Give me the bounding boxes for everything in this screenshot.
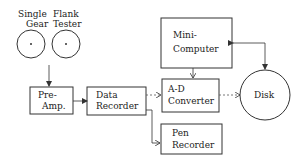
block-preamp: Pre- Amp.: [30, 87, 73, 114]
block-ad-converter: A-D Converter: [162, 79, 219, 112]
block-disk: Disk: [240, 70, 290, 120]
datarecorder-line2: Recorder: [96, 101, 139, 111]
block-data-recorder: Data Recorder: [87, 87, 146, 115]
disk-label: Disk: [254, 90, 275, 100]
minicomputer-line2: Computer: [173, 44, 219, 54]
block-pen-recorder: Pen Recorder: [161, 124, 222, 154]
adconverter-line2: Converter: [168, 96, 215, 106]
preamp-line1: Pre-: [38, 90, 57, 100]
connector-minicomputer-disk: [233, 43, 265, 69]
penrecorder-line1: Pen: [172, 128, 189, 138]
gear-right-icon: [52, 30, 80, 58]
adconverter-line1: A-D: [167, 84, 185, 94]
tester-label-tester: Tester: [53, 19, 82, 29]
block-minicomputer: Mini- Computer: [161, 18, 232, 68]
preamp-line2: Amp.: [41, 101, 66, 111]
penrecorder-line2: Recorder: [172, 140, 215, 150]
minicomputer-line1: Mini-: [173, 30, 197, 40]
gear-left-icon: [17, 30, 45, 58]
tester-label-flank: Flank: [53, 9, 79, 19]
tester-label-single: Single: [18, 9, 47, 19]
block-diagram: Single Gear Flank Tester Pre- Amp. Data …: [0, 0, 305, 167]
datarecorder-line1: Data: [96, 90, 118, 100]
connector-datarecorder-penrecorder: [146, 110, 160, 143]
tester-label-gear: Gear: [26, 19, 49, 29]
